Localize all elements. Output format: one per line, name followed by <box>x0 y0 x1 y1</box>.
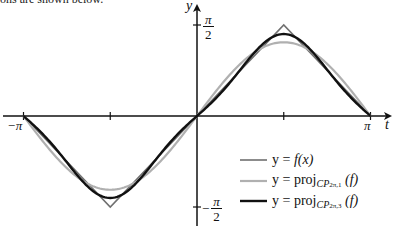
y-axis-label: y <box>186 0 192 14</box>
x-tick-label-neg-pi: −π <box>7 118 22 134</box>
legend-item-proj1: y = projCP2π,1 (f) <box>240 171 358 192</box>
legend-swatch-proj3 <box>240 198 267 204</box>
legend: y = f(x) y = projCP2π,1 (f) y = projCP2π… <box>240 150 358 212</box>
legend-swatch-proj1 <box>240 178 267 184</box>
y-tick-label-neg-pi-over-2: − π 2 <box>202 195 222 223</box>
x-axis-label: t <box>385 117 389 133</box>
x-tick-label-pi: π <box>364 118 371 134</box>
legend-item-f: y = f(x) <box>240 150 358 171</box>
legend-item-proj3: y = projCP2π,3 (f) <box>240 191 358 212</box>
legend-swatch-f <box>240 157 267 163</box>
y-tick-label-pi-over-2: π 2 <box>203 13 214 41</box>
